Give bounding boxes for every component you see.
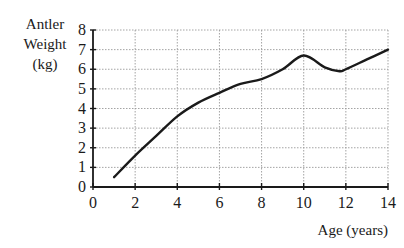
x-axis-label: Age (years) — [318, 222, 388, 239]
line-chart — [0, 0, 404, 248]
antler-weight-line — [114, 50, 388, 178]
grid-lines — [93, 30, 388, 187]
